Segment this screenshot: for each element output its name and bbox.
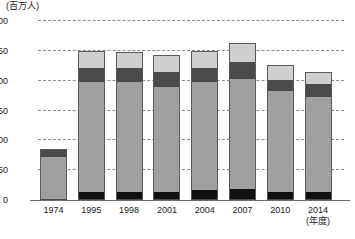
y-tick-label-150: 150	[0, 107, 8, 116]
bar-segment-2007-light-gray-segment	[229, 43, 256, 61]
bar-1998	[116, 52, 143, 200]
stacked-bar-chart: (百万人) 050100150200250300 197419951998200…	[0, 0, 355, 239]
bar-2014	[305, 72, 332, 200]
bar-segment-2004-dark-gray-segment	[191, 68, 218, 82]
bar-segment-2010-bottom-black-segment	[267, 192, 294, 200]
bar-segment-1998-light-gray-segment	[116, 52, 143, 68]
y-tick-label-250: 250	[0, 47, 8, 56]
bar-segment-2007-bottom-black-segment	[229, 189, 256, 200]
y-tick-label-0: 0	[0, 196, 8, 205]
bar-segment-1998-bottom-black-segment	[116, 192, 143, 200]
bar-2007	[229, 43, 256, 200]
bar-segment-2001-dark-gray-segment	[153, 72, 180, 86]
bar-segment-1995-bottom-black-segment	[78, 192, 105, 200]
bar-segment-2010-dark-gray-segment	[267, 80, 294, 91]
y-tick-label-300: 300	[0, 17, 8, 26]
y-tick-label-200: 200	[0, 77, 8, 86]
bar-segment-2001-light-gray-segment	[153, 55, 180, 72]
y-axis-unit-caption: (百万人)	[6, 1, 39, 12]
bars-layer	[38, 21, 344, 200]
bar-segment-2001-bottom-black-segment	[153, 192, 180, 200]
bar-2010	[267, 65, 294, 200]
x-axis-unit-label: (年度)	[295, 216, 341, 227]
x-tick-year: 1998	[119, 205, 139, 215]
bar-segment-2004-main-mid-gray-segment	[191, 82, 218, 190]
bar-segment-2004-light-gray-segment	[191, 51, 218, 68]
x-axis-line	[30, 200, 350, 201]
x-tick-year: 2010	[270, 205, 290, 215]
bar-segment-2007-dark-gray-segment	[229, 62, 256, 80]
bar-segment-1998-main-mid-gray-segment	[116, 82, 143, 192]
bar-segment-1995-dark-gray-segment	[78, 68, 105, 82]
x-tick-year: 2014	[308, 205, 328, 215]
bar-segment-1998-dark-gray-segment	[116, 68, 143, 82]
x-tick-label-2014: 2014(年度)	[295, 205, 341, 227]
bar-segment-2014-main-mid-gray-segment	[305, 97, 332, 192]
bar-segment-2001-main-mid-gray-segment	[153, 87, 180, 193]
bar-2001	[153, 55, 180, 200]
x-tick-year: 1995	[81, 205, 101, 215]
bar-segment-2014-dark-gray-segment	[305, 84, 332, 97]
bar-segment-2014-bottom-black-segment	[305, 192, 332, 200]
x-tick-year: 2001	[157, 205, 177, 215]
bar-2004	[191, 51, 218, 200]
y-tick-label-100: 100	[0, 136, 8, 145]
bar-segment-1995-light-gray-segment	[78, 51, 105, 68]
bar-1995	[78, 51, 105, 200]
bar-segment-1974-main-mid-gray-segment	[40, 157, 67, 200]
bar-segment-2010-light-gray-segment	[267, 65, 294, 80]
bar-segment-1974-dark-gray-segment	[40, 149, 67, 157]
bar-1974	[40, 149, 67, 200]
y-tick-label-50: 50	[0, 166, 8, 175]
x-tick-year: 2007	[232, 205, 252, 215]
bar-segment-1995-main-mid-gray-segment	[78, 82, 105, 192]
x-tick-year: 2004	[195, 205, 215, 215]
bar-segment-2010-main-mid-gray-segment	[267, 91, 294, 192]
bar-segment-2007-main-mid-gray-segment	[229, 79, 256, 189]
x-tick-year: 1974	[43, 205, 63, 215]
bar-segment-2004-bottom-black-segment	[191, 190, 218, 200]
bar-segment-2014-light-gray-segment	[305, 72, 332, 84]
